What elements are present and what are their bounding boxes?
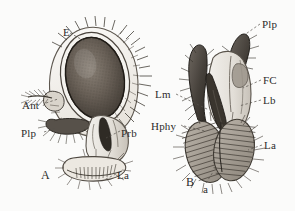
label-palp-b: Plp — [262, 19, 277, 30]
label-labellum-b: La — [264, 140, 276, 151]
label-labellum-a: La — [117, 170, 129, 181]
figure-plate: E Ant Plp Prb La A Plp FC Lb Lm Hphy La … — [0, 0, 295, 211]
label-food-canal: FC — [263, 75, 277, 86]
theca — [232, 64, 248, 88]
label-antenna: Ant — [22, 100, 39, 111]
label-eye: E — [63, 27, 70, 38]
label-hypopharynx: Hphy — [151, 121, 176, 132]
panel-id-b: B — [186, 177, 194, 188]
label-proboscis: Prb — [121, 128, 137, 139]
label-labium: Lm — [155, 89, 171, 100]
label-palp-a: Plp — [21, 128, 36, 139]
label-pseudotrachea: a — [203, 184, 208, 195]
label-labrum: Lb — [263, 95, 276, 106]
panel-id-a: A — [41, 170, 50, 181]
panel-a-drawing — [21, 16, 152, 190]
panel-b-drawing — [173, 24, 265, 194]
